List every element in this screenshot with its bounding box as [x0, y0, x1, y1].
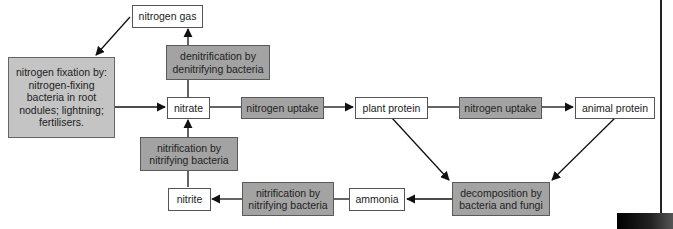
node-decomposition: decomposition by bacteria and fungi [452, 182, 550, 216]
node-nitrogen-gas: nitrogen gas [132, 5, 203, 28]
node-nitrogen-uptake-1: nitrogen uptake [241, 97, 324, 119]
node-nitrogen-uptake-2: nitrogen uptake [459, 97, 542, 119]
node-nitrate: nitrate [167, 97, 210, 119]
node-nitrogen-fixation: nitrogen fixation by: nitrogen-fixing ba… [8, 57, 115, 138]
node-denitrification: denitrification by denitrifying bacteria [166, 45, 270, 80]
page-corner-tab [617, 213, 673, 229]
node-plant-protein: plant protein [355, 97, 428, 119]
node-animal-protein: animal protein [575, 97, 655, 119]
node-nitrification-upper: nitrification by nitrifying bacteria [140, 137, 238, 171]
node-ammonia: ammonia [349, 188, 405, 211]
node-nitrification-lower: nitrification by nitrifying bacteria [242, 182, 334, 216]
node-nitrite: nitrite [168, 188, 211, 211]
page-edge-rule [660, 0, 662, 213]
